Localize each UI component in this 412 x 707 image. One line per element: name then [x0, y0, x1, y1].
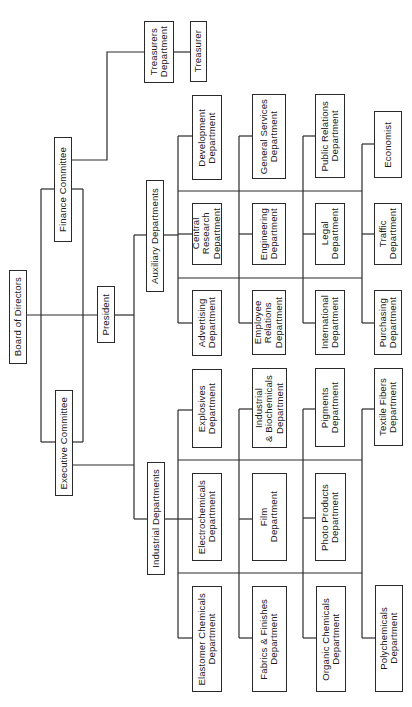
org-node-finance: Finance Committee [54, 137, 72, 242]
org-node-label: Treasurers Department [149, 26, 170, 77]
org-node-label: Economist [383, 122, 393, 168]
org-node-label: Traffic Department [378, 208, 399, 259]
org-node-label: Public Relations Department [320, 101, 341, 171]
org-node-public-relations: Public Relations Department [315, 94, 345, 178]
org-node-label: Auxiliary Departments [150, 188, 160, 284]
org-node-label: Elastomer Chemicals Department [197, 593, 218, 686]
org-node-label: Electrochemicals Department [197, 480, 218, 554]
org-node-label: Engineering Department [259, 208, 280, 260]
org-node-treasurer: Treasurer [190, 21, 207, 82]
org-node-label: Advertising Department [197, 297, 218, 348]
org-node-label: Film Department [259, 491, 280, 542]
org-node-industrial-biochemicals: Industrial & Biochemicals Department [252, 368, 287, 448]
org-node-engineering: Engineering Department [252, 203, 286, 265]
org-node-fabrics-finishes: Fabrics & Finishes Department [252, 586, 287, 692]
org-node-label: Board of Directors [13, 277, 23, 356]
org-node-label: Fabrics & Finishes Department [259, 599, 280, 680]
org-node-employee-relations: Employee Relations Department [252, 290, 286, 355]
org-node-label: Employee Relations Department [253, 297, 284, 348]
org-node-label: Legal Department [320, 208, 341, 259]
org-node-explosives: Explosives Department [192, 369, 222, 448]
org-node-label: Explosives Department [197, 383, 218, 434]
org-node-auxiliary: Auxiliary Departments [146, 180, 164, 292]
org-node-purchasing: Purchasing Department [374, 290, 402, 355]
org-node-development: Development Department [192, 95, 222, 180]
org-node-photo-products: Photo Products Department [315, 473, 346, 561]
org-node-treasurers: Treasurers Department [144, 21, 174, 83]
org-node-label: Textile Fibers Department [378, 378, 399, 436]
org-node-pigments: Pigments Department [315, 368, 345, 447]
org-node-legal: Legal Department [315, 203, 345, 265]
org-node-polychemicals: Polychemicals Department [375, 585, 403, 692]
org-node-international: International Department [315, 290, 345, 355]
org-node-label: Organic Chemicals Department [321, 598, 342, 681]
org-node-label: Treasurer [193, 30, 203, 72]
org-node-general-services: General Services Department [252, 94, 286, 179]
org-node-economist: Economist [374, 111, 402, 178]
org-node-label: Central Research Department [192, 208, 222, 259]
org-node-president: President [97, 286, 115, 343]
org-node-label: President [101, 294, 111, 335]
org-node-label: Photo Products Department [320, 484, 341, 551]
org-node-organic-chemicals: Organic Chemicals Department [316, 586, 346, 692]
org-node-label: Development Department [197, 109, 218, 167]
org-node-label: General Services Department [259, 99, 280, 174]
org-node-industrial: Industrial Departments [147, 462, 165, 575]
org-node-traffic: Traffic Department [374, 203, 402, 265]
org-node-label: Executive Committee [59, 397, 69, 490]
org-node-central-research: Central Research Department [192, 203, 222, 265]
org-node-label: Polychemicals Department [379, 607, 400, 670]
org-node-board: Board of Directors [9, 270, 27, 364]
org-node-label: Pigments Department [320, 382, 341, 433]
org-node-executive: Executive Committee [55, 390, 73, 496]
org-node-label: Finance Committee [58, 147, 68, 232]
org-node-film: Film Department [252, 473, 287, 561]
org-node-label: Industrial & Biochemicals Department [254, 375, 285, 442]
org-node-textile-fibers: Textile Fibers Department [374, 368, 403, 446]
org-node-label: Purchasing Department [378, 297, 399, 348]
org-node-elastomer-chemicals: Elastomer Chemicals Department [192, 586, 222, 692]
org-node-advertising: Advertising Department [192, 290, 222, 356]
org-node-label: International Department [320, 295, 341, 349]
org-node-electrochemicals: Electrochemicals Department [192, 473, 222, 561]
org-node-label: Industrial Departments [151, 469, 161, 568]
